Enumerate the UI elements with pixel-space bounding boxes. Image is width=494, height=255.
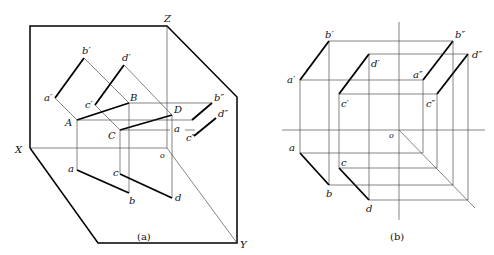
svg-text:A: A bbox=[64, 117, 72, 128]
label-z: Z bbox=[163, 13, 172, 24]
svg-text:c′: c′ bbox=[85, 99, 94, 110]
svg-text:b″: b″ bbox=[214, 92, 224, 103]
svg-text:B: B bbox=[129, 92, 137, 103]
svg-text:C: C bbox=[108, 130, 116, 141]
label-y: Y bbox=[240, 239, 248, 250]
svg-text:b: b bbox=[326, 188, 332, 199]
svg-text:d′: d′ bbox=[371, 58, 380, 69]
svg-text:d: d bbox=[366, 203, 372, 214]
svg-text:c′: c′ bbox=[341, 98, 350, 109]
svg-text:d′: d′ bbox=[122, 52, 131, 63]
svg-text:c: c bbox=[113, 167, 119, 178]
svg-text:d: d bbox=[175, 192, 181, 203]
caption-b: (b) bbox=[390, 231, 404, 242]
svg-text:b′: b′ bbox=[82, 45, 91, 56]
figure-a: Z X Y o b′ a′ d′ c′ A B C D b″ d″ c″ a a… bbox=[14, 13, 248, 250]
svg-text:c″: c″ bbox=[186, 132, 196, 143]
svg-text:c″: c″ bbox=[426, 98, 436, 109]
svg-text:a″: a″ bbox=[413, 69, 423, 80]
label-o: o bbox=[160, 151, 165, 160]
svg-text:b: b bbox=[129, 195, 135, 206]
projection-diagrams: Z X Y o b′ a′ d′ c′ A B C D b″ d″ c″ a a… bbox=[0, 0, 494, 255]
svg-text:o: o bbox=[389, 131, 394, 140]
svg-text:d″: d″ bbox=[218, 108, 228, 119]
svg-text:c: c bbox=[341, 157, 347, 168]
svg-text:a: a bbox=[289, 142, 295, 153]
svg-text:d″: d″ bbox=[472, 49, 482, 60]
svg-text:b′: b′ bbox=[325, 29, 334, 40]
svg-text:a′: a′ bbox=[287, 74, 296, 85]
svg-text:a′: a′ bbox=[44, 92, 53, 103]
caption-a: (a) bbox=[137, 231, 151, 242]
svg-text:b″: b″ bbox=[455, 29, 465, 40]
svg-text:a: a bbox=[174, 123, 180, 134]
svg-text:a: a bbox=[68, 163, 74, 174]
figure-b: b′ a′ d′ c′ b″ d″ a″ c″ o a b c d (b) bbox=[282, 22, 485, 242]
label-x: X bbox=[14, 144, 23, 155]
svg-text:D: D bbox=[173, 104, 182, 115]
frame-a bbox=[30, 26, 237, 243]
